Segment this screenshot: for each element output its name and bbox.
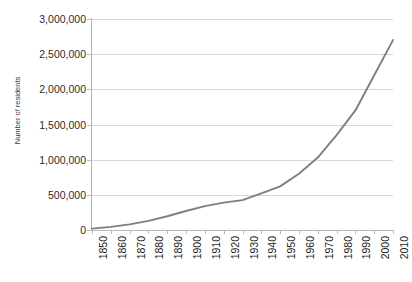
x-tick-mark bbox=[167, 230, 168, 234]
x-tick-label: 1870 bbox=[135, 236, 147, 259]
x-tick-label: 1950 bbox=[285, 236, 297, 259]
x-tick-label: 1890 bbox=[172, 236, 184, 259]
x-tick-mark bbox=[261, 230, 262, 234]
x-tick-label: 1880 bbox=[153, 236, 165, 259]
plot-area bbox=[92, 19, 393, 230]
x-tick-mark bbox=[111, 230, 112, 234]
y-tick-label: 500,000 bbox=[14, 189, 86, 201]
x-tick-mark bbox=[374, 230, 375, 234]
x-tick-mark bbox=[148, 230, 149, 234]
x-tick-mark bbox=[337, 230, 338, 234]
x-tick-mark bbox=[299, 230, 300, 234]
x-tick-label: 1920 bbox=[229, 236, 241, 259]
line-chart: Number of residents 0 500,000 1,000,000 … bbox=[0, 0, 412, 282]
y-tick-label: 0 bbox=[14, 224, 86, 236]
x-tick-mark bbox=[186, 230, 187, 234]
x-tick-label: 1990 bbox=[360, 236, 372, 259]
x-tick-label: 1930 bbox=[248, 236, 260, 259]
x-tick-label: 1910 bbox=[210, 236, 222, 259]
x-tick-mark bbox=[280, 230, 281, 234]
x-tick-label: 1940 bbox=[266, 236, 278, 259]
y-tick-label: 1,500,000 bbox=[14, 119, 86, 131]
x-tick-mark bbox=[224, 230, 225, 234]
x-tick-mark bbox=[393, 230, 394, 234]
x-tick-mark bbox=[243, 230, 244, 234]
x-tick-label: 2010 bbox=[398, 236, 410, 259]
y-axis-tick-labels: 0 500,000 1,000,000 1,500,000 2,000,000 … bbox=[12, 0, 86, 282]
x-tick-label: 1970 bbox=[323, 236, 335, 259]
x-tick-label: 1980 bbox=[342, 236, 354, 259]
x-tick-label: 1860 bbox=[116, 236, 128, 259]
data-series-line bbox=[92, 19, 393, 230]
y-tick-label: 2,500,000 bbox=[14, 48, 86, 60]
x-tick-mark bbox=[355, 230, 356, 234]
x-tick-label: 2000 bbox=[379, 236, 391, 259]
x-tick-label: 1850 bbox=[97, 236, 109, 259]
x-tick-label: 1900 bbox=[191, 236, 203, 259]
x-tick-mark bbox=[318, 230, 319, 234]
x-tick-mark bbox=[92, 230, 93, 234]
x-tick-mark bbox=[205, 230, 206, 234]
x-tick-label: 1960 bbox=[304, 236, 316, 259]
y-tick-label: 1,000,000 bbox=[14, 154, 86, 166]
y-tick-label: 2,000,000 bbox=[14, 83, 86, 95]
y-tick-label: 3,000,000 bbox=[14, 13, 86, 25]
x-tick-mark bbox=[130, 230, 131, 234]
